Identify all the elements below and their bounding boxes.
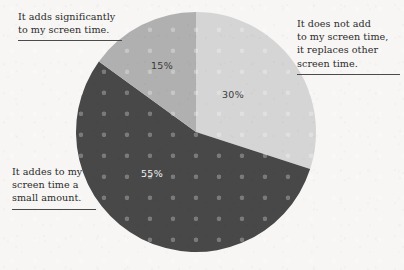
annotation-right-rule: [297, 74, 400, 75]
pie-slice-value-label: 30%: [222, 89, 244, 100]
annotation-bottom-left-text: It addes to my screen time a small amoun…: [12, 165, 104, 205]
annotation-does-not-add: It does not add to my screen time, it re…: [297, 17, 401, 75]
annotation-adds-small-amount: It addes to my screen time a small amoun…: [12, 165, 104, 210]
annotation-right-text: It does not add to my screen time, it re…: [297, 17, 401, 70]
pie-slice-value-label: 15%: [151, 60, 173, 71]
pie-slice-value-label: 55%: [141, 168, 163, 179]
annotation-top-left-rule: [18, 40, 122, 41]
annotation-bottom-left-rule: [12, 209, 96, 210]
annotation-top-left-text: It adds significantly to my screen time.: [18, 10, 136, 36]
annotation-adds-significantly: It adds significantly to my screen time.: [18, 10, 136, 41]
pie-slice-group: [76, 12, 316, 252]
